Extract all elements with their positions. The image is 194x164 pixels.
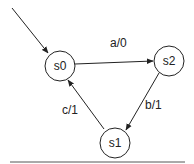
node-s0: s0	[45, 51, 75, 81]
node-label-s2: s2	[163, 54, 176, 68]
state-diagram: a/0 b/1 c/1 s0 s2 s1	[0, 0, 194, 164]
edge-label-a0: a/0	[110, 36, 127, 50]
edge-s0-s2	[75, 61, 153, 64]
node-label-s0: s0	[54, 59, 67, 73]
edge-label-b1: b/1	[145, 98, 162, 112]
node-s1: s1	[100, 128, 130, 158]
node-label-s1: s1	[109, 136, 122, 150]
initial-arrow	[12, 8, 48, 53]
edge-label-c1: c/1	[62, 103, 78, 117]
node-s2: s2	[154, 46, 184, 76]
